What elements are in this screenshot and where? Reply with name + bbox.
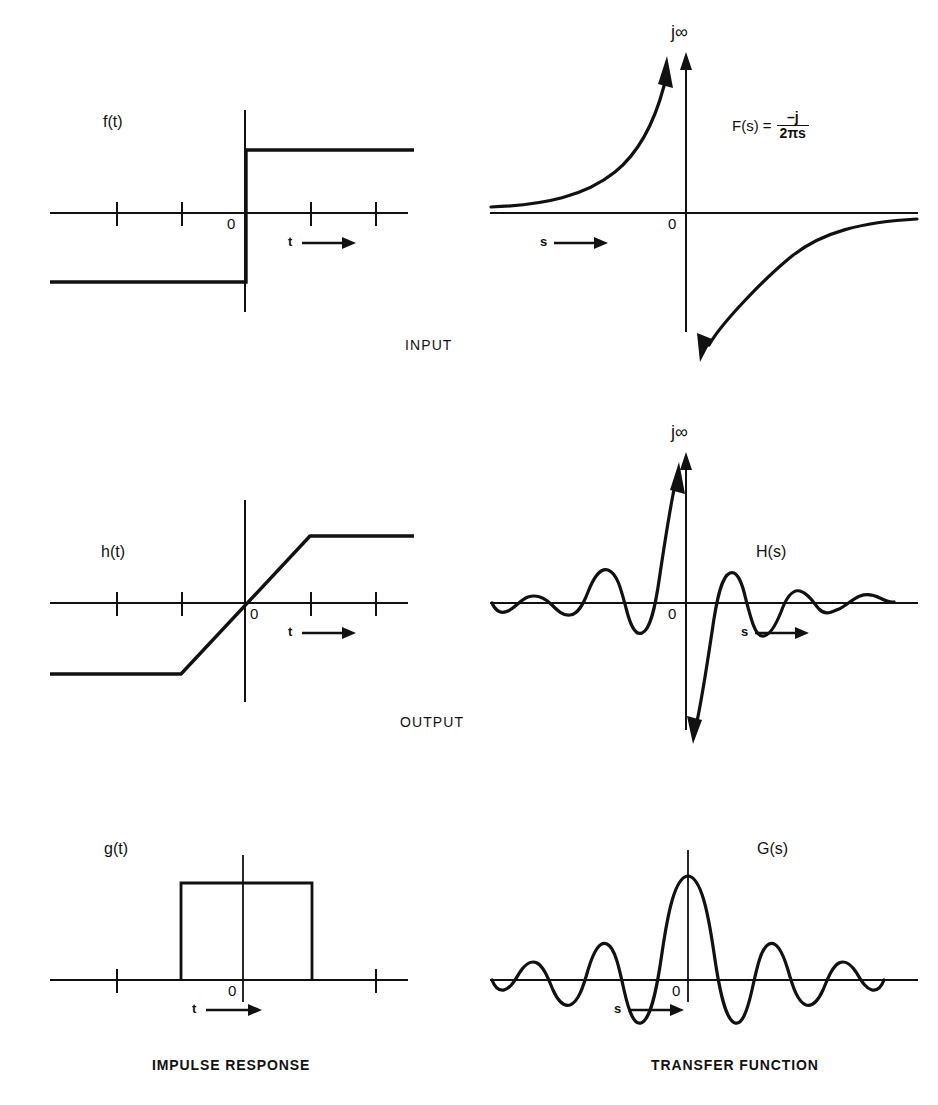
G-of-s-label: G(s): [757, 840, 788, 858]
formula-fraction: –j 2πs: [777, 110, 809, 140]
formula-numerator: –j: [784, 110, 802, 125]
F-zero-label: 0: [668, 215, 676, 232]
F-upper-branch-arrow-head: [658, 56, 673, 88]
g-t-arrow-head: [248, 1004, 262, 1016]
F-upper-left-branch: [491, 86, 664, 207]
transform-pairs-figure: f(t) 0 t j∞ 0 s F(s) = –j 2πs INPUT: [0, 0, 938, 1105]
H-imaginary-axis-label: j∞: [671, 422, 688, 443]
caption-impulse-response: IMPULSE RESPONSE: [152, 1057, 310, 1073]
H-right-branch-arrow-head: [687, 716, 702, 744]
H-s-arrow-head: [795, 627, 809, 639]
G-freq-var-label: s: [614, 1001, 621, 1016]
f-t-arrow-head: [342, 237, 356, 249]
formula-denominator: 2πs: [777, 125, 809, 141]
F-freq-var-label: s: [540, 234, 547, 249]
G-zero-label: 0: [672, 982, 680, 999]
panel-h-of-t: [50, 500, 414, 702]
F-of-s-formula: F(s) = –j 2πs: [732, 110, 809, 140]
h-zero-label: 0: [250, 605, 258, 622]
panel-F-of-s: [490, 52, 918, 362]
F-lower-right-branch: [709, 219, 917, 345]
row-input-graphics: [0, 0, 938, 390]
panel-f-of-t: [50, 110, 414, 312]
H-zero-label: 0: [668, 605, 676, 622]
h-t-arrow-head: [342, 627, 356, 639]
caption-transfer-function: TRANSFER FUNCTION: [651, 1057, 819, 1073]
panel-G-of-s: [490, 850, 918, 1023]
H-right-ripples: [696, 573, 894, 726]
g-zero-label: 0: [228, 982, 236, 999]
section-label-input: INPUT: [405, 337, 453, 353]
section-label-output: OUTPUT: [400, 714, 464, 730]
g-of-t-label: g(t): [104, 840, 128, 858]
f-of-t-label: f(t): [103, 113, 123, 131]
panel-H-of-s: [490, 452, 918, 744]
row-impulse-graphics: [0, 820, 938, 1085]
g-pulse-curve: [181, 883, 312, 980]
F-s-arrow-head: [594, 237, 608, 249]
row-output-graphics: [0, 440, 938, 780]
G-s-arrow-head: [670, 1004, 684, 1016]
f-time-var-label: t: [288, 234, 292, 249]
h-time-var-label: t: [288, 624, 292, 639]
f-zero-label: 0: [227, 215, 235, 232]
h-of-t-label: h(t): [101, 543, 125, 561]
H-freq-var-label: s: [741, 624, 748, 639]
H-axis-arrow-head: [680, 452, 692, 470]
g-time-var-label: t: [192, 1001, 196, 1016]
F-imaginary-axis-label: j∞: [671, 22, 688, 43]
formula-lhs: F(s) =: [732, 117, 772, 134]
H-of-s-label: H(s): [756, 543, 786, 561]
F-lower-branch-arrow-head: [697, 333, 712, 362]
H-left-ripples: [492, 480, 676, 633]
F-axis-arrow-head: [680, 52, 692, 70]
